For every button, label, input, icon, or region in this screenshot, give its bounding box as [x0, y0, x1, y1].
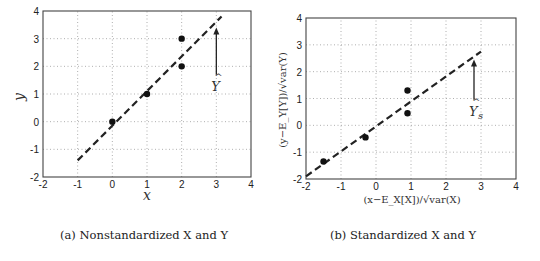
data-point: [178, 63, 184, 69]
y-tick-label: 1: [33, 89, 39, 100]
x-tick-label: 0: [373, 181, 379, 192]
y-tick-label: 4: [296, 13, 302, 24]
regression-line: [78, 17, 222, 161]
x-tick-label: -2: [39, 179, 48, 190]
arrowhead-icon: [213, 28, 219, 35]
chart-panel-b: -2-101234-2-101234Y^s: [293, 13, 519, 192]
x-tick-label: 3: [478, 181, 484, 192]
subscript-s: s: [478, 110, 483, 121]
x-tick-label: 3: [214, 179, 220, 190]
y-tick-label: 2: [33, 61, 39, 72]
y-tick-label: 3: [33, 34, 39, 45]
regression-line: [306, 52, 481, 177]
x-tick-label: 0: [110, 179, 116, 190]
y-tick-label: 0: [296, 120, 302, 131]
x-tick-label: 2: [443, 181, 449, 192]
data-point: [362, 134, 368, 140]
data-point: [178, 35, 184, 41]
caption-a: (a) Nonstandardized X and Y: [60, 228, 228, 242]
data-point: [109, 118, 115, 124]
y-tick-label: 4: [33, 6, 39, 17]
hat-accent: ^: [214, 71, 222, 82]
x-tick-label: -1: [73, 179, 82, 190]
data-point: [320, 158, 326, 164]
y-tick-label: -2: [30, 172, 39, 183]
x-tick-label: -1: [337, 181, 346, 192]
data-point: [404, 110, 410, 116]
hat-accent: ^: [472, 96, 480, 107]
y-tick-label: -1: [293, 147, 302, 158]
data-point: [404, 87, 410, 93]
figure-canvas: -2-101234-2-101234Y^-2-101234-2-101234Y^…: [0, 0, 540, 261]
x-axis-label: (x−E_X[X])/√var(X): [363, 194, 460, 206]
x-tick-label: 1: [408, 181, 414, 192]
x-tick-label: 4: [248, 179, 254, 190]
y-tick-label: -2: [293, 174, 302, 185]
x-tick-label: 4: [513, 181, 519, 192]
x-tick-label: 2: [179, 179, 185, 190]
y-tick-label: 2: [296, 67, 302, 78]
y-tick-label: -1: [30, 144, 39, 155]
y-tick-label: 1: [296, 94, 302, 105]
chart-panel-a: -2-101234-2-101234Y^: [30, 6, 254, 190]
data-point: [144, 91, 150, 97]
y-axis-label: (y−E_Y[Y])/√var(Y): [277, 52, 289, 148]
caption-b: (b) Standardized X and Y: [330, 228, 476, 242]
y-tick-label: 0: [33, 117, 39, 128]
arrowhead-icon: [471, 60, 477, 67]
y-tick-label: 3: [296, 40, 302, 51]
x-axis-label: x: [143, 187, 151, 203]
x-tick-label: -2: [302, 181, 311, 192]
y-axis-label: y: [11, 92, 27, 102]
